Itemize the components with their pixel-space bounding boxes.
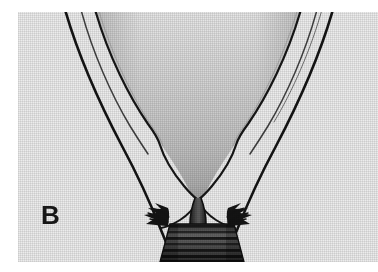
figure-panel: B (0, 0, 378, 272)
panel-label: B (41, 202, 60, 228)
halftone-plate: B (18, 12, 378, 262)
anatomical-line-drawing (18, 12, 378, 262)
